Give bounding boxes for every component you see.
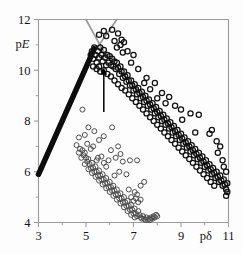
data-point (167, 94, 172, 99)
data-point (106, 158, 111, 163)
data-point (218, 144, 223, 149)
data-point (115, 31, 120, 36)
data-point (163, 101, 168, 106)
data-point (188, 111, 193, 116)
y-tick-label: 12 (18, 13, 31, 27)
data-point (214, 139, 219, 144)
upper-branch-points (88, 27, 230, 198)
data-point (152, 80, 157, 85)
data-point (212, 183, 217, 188)
data-point (112, 173, 117, 178)
data-point (138, 183, 143, 188)
data-point (80, 107, 85, 112)
data-point (131, 52, 136, 57)
data-point (116, 144, 121, 149)
data-point (108, 148, 113, 153)
data-point (136, 66, 141, 71)
y-tick-label: 8 (24, 114, 30, 128)
annotation-arrow (100, 68, 107, 112)
data-point (117, 169, 122, 174)
data-point (96, 32, 101, 37)
data-point (112, 38, 117, 43)
data-point (86, 125, 91, 130)
data-point (118, 151, 123, 156)
data-point (196, 112, 201, 117)
data-point (180, 117, 185, 122)
figure-container: 4681012357911pEpδ (0, 0, 243, 255)
x-axis-title: pδ (200, 229, 212, 243)
x-tick-label: 7 (130, 229, 136, 243)
data-point (101, 28, 106, 33)
data-point (127, 158, 132, 163)
data-point (126, 187, 131, 192)
data-point (172, 103, 177, 108)
x-tick-label: 9 (178, 229, 184, 243)
chart-svg: 4681012357911pEpδ (0, 0, 243, 255)
data-point (82, 132, 87, 137)
lower-branch-points (74, 107, 160, 222)
data-point (148, 87, 153, 92)
data-point (113, 155, 118, 160)
data-point (124, 172, 129, 177)
data-point (144, 75, 149, 80)
data-point (129, 60, 134, 65)
data-point (142, 80, 147, 85)
data-point (120, 159, 125, 164)
axes-frame (39, 20, 229, 223)
data-point (155, 96, 160, 101)
data-point (110, 125, 115, 130)
y-tick-label: 10 (18, 64, 31, 78)
y-axis-title: pE (16, 37, 30, 51)
data-point (101, 160, 106, 165)
data-point (193, 130, 198, 135)
data-point (159, 90, 164, 95)
data-point (178, 107, 183, 112)
x-tick-label: 5 (83, 229, 89, 243)
data-point (97, 138, 102, 143)
data-point (215, 150, 220, 155)
x-tick-label: 3 (35, 229, 41, 243)
data-point (92, 129, 97, 134)
data-point (135, 158, 140, 163)
y-tick-label: 4 (24, 216, 31, 230)
data-point (76, 135, 81, 140)
data-point (85, 141, 90, 146)
y-tick-label: 6 (24, 165, 30, 179)
x-tick-label: 11 (222, 229, 234, 243)
data-point (101, 134, 106, 139)
data-point (220, 158, 225, 163)
data-point (221, 164, 226, 169)
